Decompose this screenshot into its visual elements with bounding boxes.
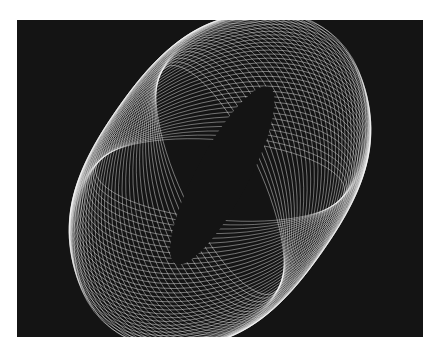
- spirograph-pattern: [17, 20, 423, 337]
- pattern-panel: [17, 20, 423, 337]
